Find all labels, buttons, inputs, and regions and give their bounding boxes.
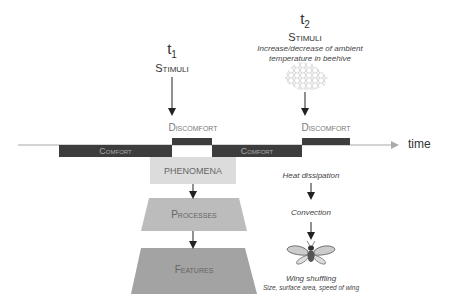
heat-dissipation-label: Heat dissipation [266,171,356,180]
segment-discomfort-2 [302,138,350,145]
stimulus-2-label: Stimuli [275,31,335,43]
honeycomb-icon [284,62,328,90]
time-t1: t1 [158,40,186,60]
processes-label: Processes [145,209,243,220]
discomfort-label-2: Discomfort [291,122,361,133]
features-label: Features [136,264,252,275]
wing-detail-label: Size, surface area, speed of wing [246,284,376,291]
wing-shuffling-label: Wing shuffling [256,274,366,283]
time-axis-label: time [408,137,431,151]
stimulus-1-label: Stimuli [142,62,202,74]
convection-label: Convection [266,208,356,217]
comfort-label-2: Comfort [212,145,302,157]
phenomena-label: PHENOMENA [150,166,236,176]
segment-discomfort-1 [172,138,212,145]
comfort-label-1: Comfort [59,145,172,157]
stimulus-2-desc-1: Increase/decrease of ambient [240,44,380,53]
time-t2-sub: 2 [304,19,310,30]
stimulus-2-desc-2: temperature in beehive [240,54,380,63]
bee-icon [287,241,335,264]
discomfort-label-1: Discomfort [158,122,228,133]
time-t1-sub: 1 [171,49,177,60]
time-t2: t2 [291,10,319,30]
